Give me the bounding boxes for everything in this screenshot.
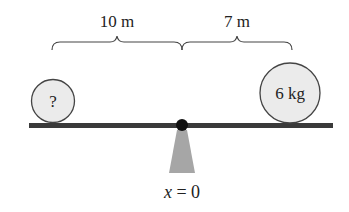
seesaw-diagram: 10 m 7 m ? 6 kg x = 0 — [0, 0, 349, 212]
left-distance-label: 10 m — [100, 12, 134, 31]
fulcrum-triangle — [169, 130, 195, 173]
right-distance-label: 7 m — [224, 12, 250, 31]
left-distance-brace — [52, 36, 182, 50]
pivot-variable: x — [163, 182, 172, 202]
right-distance-brace — [182, 36, 292, 50]
known-mass-label: 6 kg — [275, 84, 305, 103]
pivot-value: = 0 — [172, 182, 200, 202]
unknown-mass-label: ? — [49, 92, 57, 111]
pivot-position-label: x = 0 — [163, 182, 200, 202]
pivot-dot — [176, 119, 188, 131]
